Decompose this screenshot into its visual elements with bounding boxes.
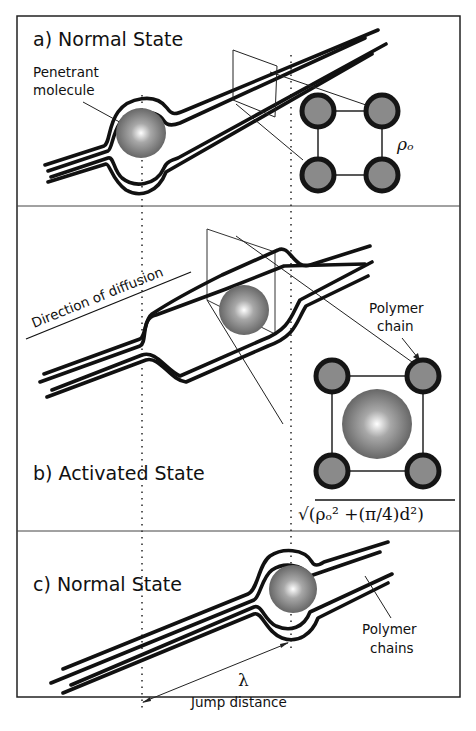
chain-cross-section: [366, 159, 398, 191]
chain-cross-section: [316, 455, 348, 487]
jump-distance-label: Jump distance: [190, 694, 287, 710]
polymer-chains-label-line2: chains: [370, 640, 414, 656]
chain-cross-section: [366, 95, 398, 127]
penetrant-molecule-cross-section: [342, 389, 412, 459]
panel-c-title: c) Normal State: [33, 573, 182, 595]
panel-a-title: a) Normal State: [33, 28, 183, 50]
chain-cross-section: [407, 455, 439, 487]
polymer-chain: [51, 552, 380, 683]
chain-cross-section: [407, 360, 439, 392]
direction-label: Direction of diffusion: [29, 263, 165, 330]
panel-b-title: b) Activated State: [33, 462, 205, 484]
penetrant-label-line2: molecule: [33, 82, 95, 98]
penetrant-molecule: [219, 285, 269, 335]
polymer-chains-label-line1: Polymer: [362, 621, 417, 637]
polymer-chain-label-line2: chain: [377, 318, 414, 334]
arrowhead-icon: [280, 642, 289, 648]
chain-cross-section: [302, 159, 334, 191]
panel-b: Direction of diffusion Polymer chain b) …: [26, 229, 455, 524]
penetrant-molecule: [116, 108, 166, 158]
panel-c: c) Normal State Polymer chains λ Jump di…: [33, 542, 417, 710]
chain-cross-section: [302, 95, 334, 127]
chain-cross-section: [316, 360, 348, 392]
penetrant-label-line1: Penetrant: [33, 64, 99, 80]
panel-a: a) Normal State Penetrant molecule ρₒ: [33, 28, 414, 194]
rho-zero-label: ρₒ: [396, 134, 414, 154]
penetrant-molecule: [269, 565, 317, 613]
arrowhead-icon: [142, 697, 151, 703]
activated-spacing-formula: √(ρₒ² +(π/4)d²): [298, 504, 424, 524]
polymer-chain-label-line1: Polymer: [369, 300, 424, 316]
diffusion-diagram: a) Normal State Penetrant molecule ρₒ Di…: [0, 0, 476, 731]
lambda-symbol: λ: [238, 670, 249, 690]
